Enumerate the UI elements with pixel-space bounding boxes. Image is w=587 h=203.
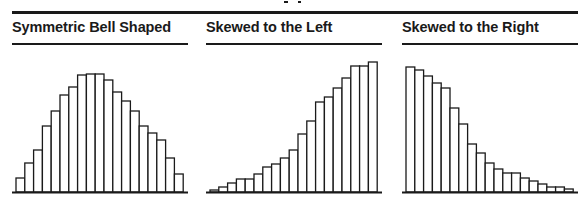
histogram-bar (520, 178, 529, 192)
histogram-bar (351, 66, 360, 192)
histogram-bar (254, 174, 263, 192)
histogram-bar (324, 97, 333, 192)
histogram-bar (16, 178, 25, 192)
histogram-bar (556, 187, 565, 192)
histogram-bar (485, 163, 494, 192)
histogram-bar (25, 163, 34, 192)
histogram-bar (263, 167, 272, 192)
histogram-bar (42, 126, 51, 192)
histogram-bar (512, 173, 521, 192)
histogram-skewed-left (206, 16, 382, 203)
histogram-bar (60, 95, 69, 192)
histogram-bar (342, 78, 351, 192)
histogram-bar (245, 179, 254, 192)
histogram-bar (432, 83, 441, 192)
histogram-symmetric (12, 16, 188, 203)
title-fragment (298, 1, 301, 3)
histogram-bar (459, 124, 468, 192)
histogram-bar (298, 134, 307, 192)
histogram-bar (113, 92, 122, 192)
top-rule (12, 11, 578, 14)
histogram-bar (529, 181, 538, 192)
histogram-bar (86, 74, 95, 192)
histogram-bar (157, 140, 166, 192)
histogram-bar (236, 179, 245, 192)
histogram-bar (148, 133, 157, 192)
histogram-bar (139, 126, 148, 192)
panel-skewed-left: Skewed to the Left (206, 16, 382, 203)
histogram-bar (494, 169, 503, 192)
histogram-bar (538, 184, 547, 192)
histogram-bar (316, 102, 325, 192)
histogram-bar (280, 158, 289, 192)
histogram-bar (307, 121, 316, 192)
histogram-bar (78, 75, 87, 192)
histogram-bar (468, 144, 477, 192)
histogram-skewed-right (402, 16, 578, 203)
title-fragment (284, 1, 288, 3)
histogram-bar (34, 150, 43, 192)
histogram-bar (368, 62, 377, 192)
histogram-bar (130, 111, 139, 192)
histogram-bar (547, 187, 556, 192)
histogram-bar (166, 158, 175, 192)
histogram-bar (441, 88, 450, 192)
panel-symmetric: Symmetric Bell Shaped (12, 16, 188, 203)
histogram-bar (333, 88, 342, 192)
panel-skewed-right: Skewed to the Right (402, 16, 578, 203)
histogram-bar (104, 80, 113, 192)
histogram-bar (360, 66, 369, 192)
histogram-bar (415, 70, 424, 192)
histogram-bar (424, 76, 433, 192)
histogram-bar (450, 108, 459, 192)
histogram-bar (69, 87, 78, 192)
histogram-bar (406, 67, 415, 192)
histogram-bar (51, 111, 60, 192)
histogram-bar (174, 174, 183, 192)
histogram-bar (503, 173, 512, 192)
histogram-bar (272, 164, 281, 192)
histogram-bar (219, 187, 228, 192)
histogram-bar (228, 183, 237, 192)
histogram-bar (95, 74, 104, 192)
histogram-bar (289, 150, 298, 192)
histogram-bar (122, 101, 131, 192)
histogram-bar (476, 153, 485, 192)
